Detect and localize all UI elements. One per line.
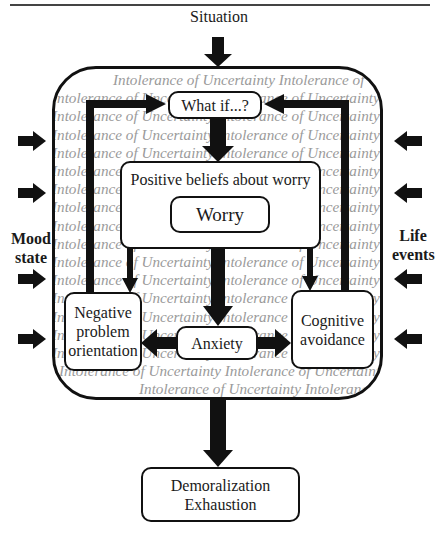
worry-node: Worry [170, 196, 270, 233]
anxiety-label: Anxiety [191, 334, 243, 353]
life-events-label: Life events [392, 226, 434, 264]
anxiety-to-avoidance-arrow-icon [257, 329, 291, 357]
anxiety-to-negative-arrow-icon [141, 329, 177, 357]
mood-state-label: Mood state [10, 229, 52, 267]
cognitive-avoidance-label: Cognitive avoidance [299, 311, 366, 349]
what-if-label: What if...? [181, 96, 249, 115]
whatif-to-beliefs-arrow-icon [202, 118, 234, 162]
worry-label: Worry [196, 205, 244, 224]
positive-beliefs-label: Positive beliefs about worry [131, 170, 311, 189]
anxiety-node: Anxiety [176, 326, 258, 360]
negative-problem-orientation-node: Negative problem orientation [64, 292, 142, 371]
beliefs-to-anxiety-arrow-icon [203, 248, 233, 326]
demoralization-exhaustion-node: Demoralization Exhaustion [141, 467, 300, 522]
situation-arrow-icon [204, 37, 232, 67]
negative-problem-orientation-label: Negative problem orientation [68, 303, 137, 360]
what-if-node: What if...? [168, 91, 262, 119]
cognitive-avoidance-node: Cognitive avoidance [291, 290, 374, 369]
exhaustion-label: Exhaustion [185, 495, 257, 514]
demoralization-label: Demoralization [171, 476, 271, 495]
beliefs-to-avoidance-arrow-icon [302, 248, 318, 291]
arrows-layer [0, 0, 444, 536]
beliefs-to-negative-arrow-icon [122, 248, 138, 293]
to-demoralization-arrow-icon [203, 400, 233, 467]
